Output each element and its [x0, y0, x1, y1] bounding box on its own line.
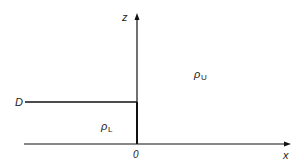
svg-text:L: L [108, 125, 113, 134]
z-axis-arrow-icon [135, 13, 140, 20]
diagram-canvas: z x 0 D ρ U ρ L [0, 0, 304, 167]
z-axis-label: z [121, 11, 128, 23]
x-axis-label: x [282, 149, 289, 161]
upper-density-label: ρ U [193, 68, 207, 82]
origin-label: 0 [133, 149, 139, 160]
svg-text:ρ: ρ [193, 68, 200, 80]
lower-density-label: ρ L [100, 120, 113, 134]
svg-text:U: U [201, 73, 207, 82]
svg-text:ρ: ρ [100, 120, 107, 132]
depth-label: D [15, 96, 23, 108]
x-axis [24, 142, 291, 147]
x-axis-arrow-icon [284, 142, 291, 147]
